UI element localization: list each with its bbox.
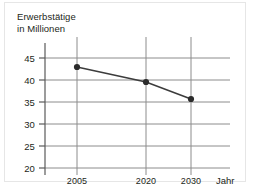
y-tick-label-30: 30: [11, 119, 35, 130]
horizontal-gridlines: [45, 58, 230, 168]
y-tick-label-25: 25: [11, 141, 35, 152]
y-tick-label-20: 20: [11, 163, 35, 174]
y-tick-label-45: 45: [11, 53, 35, 64]
data-point-2020: [143, 79, 149, 85]
y-tick-label-35: 35: [11, 97, 35, 108]
data-series-line: [77, 67, 191, 99]
line-chart-plot: [5, 3, 247, 183]
x-tick-label-2005: 2005: [57, 176, 97, 186]
chart-card: Erwerbstätige in Millionen: [4, 2, 246, 182]
y-axis-ticks: [39, 58, 45, 168]
x-tick-label-2020: 2020: [126, 176, 166, 186]
data-point-2030: [188, 96, 194, 102]
x-axis-title: Jahr: [216, 175, 234, 186]
data-point-2005: [74, 64, 80, 70]
y-tick-label-40: 40: [11, 75, 35, 86]
x-tick-label-2030: 2030: [171, 176, 211, 186]
